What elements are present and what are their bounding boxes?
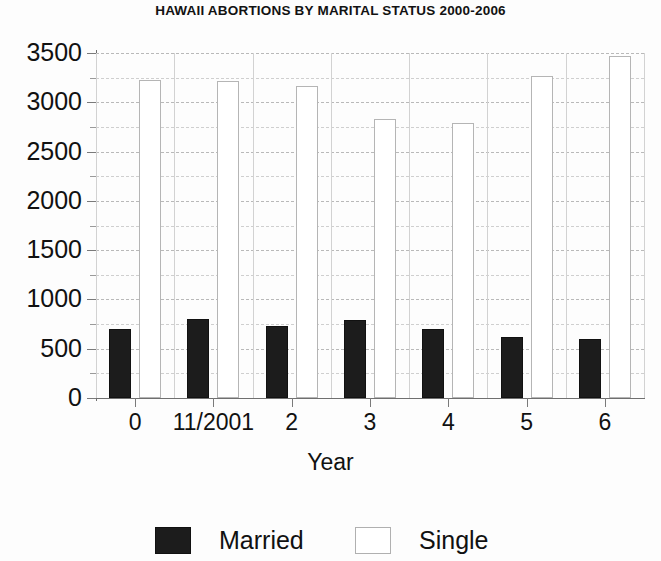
y-tick bbox=[87, 299, 96, 300]
y-tick-minor bbox=[90, 275, 96, 276]
x-axis-title: Year bbox=[0, 449, 661, 476]
y-tick-label: 1000 bbox=[2, 286, 82, 311]
vertical-gridline bbox=[487, 53, 488, 398]
vertical-gridline bbox=[644, 53, 645, 398]
gridline-minor bbox=[96, 78, 644, 79]
bar-single bbox=[531, 76, 553, 398]
y-tick bbox=[87, 102, 96, 103]
y-tick bbox=[87, 152, 96, 153]
bar-single bbox=[296, 86, 318, 398]
gridline-major bbox=[96, 250, 644, 251]
bar-single bbox=[609, 56, 631, 398]
x-tick-label: 6 bbox=[535, 411, 661, 434]
legend-label-single: Single bbox=[419, 528, 489, 553]
gridline-major bbox=[96, 152, 644, 153]
y-tick-minor bbox=[90, 127, 96, 128]
y-tick bbox=[87, 398, 96, 399]
y-tick bbox=[87, 250, 96, 251]
gridline-major bbox=[96, 201, 644, 202]
y-tick-label: 3500 bbox=[2, 40, 82, 65]
y-tick-minor bbox=[90, 226, 96, 227]
plot-area: 0500100015002000250030003500 011/2001234… bbox=[96, 53, 644, 398]
y-tick-label: 3000 bbox=[2, 89, 82, 114]
x-tick bbox=[527, 398, 528, 407]
bar-married bbox=[266, 326, 288, 398]
y-tick bbox=[87, 349, 96, 350]
gridline-major bbox=[96, 53, 644, 54]
y-tick-label: 1500 bbox=[2, 237, 82, 262]
gridline-minor bbox=[96, 226, 644, 227]
vertical-gridline bbox=[409, 53, 410, 398]
bar-single bbox=[217, 81, 239, 398]
x-tick bbox=[292, 398, 293, 407]
y-tick-label: 0 bbox=[2, 385, 82, 410]
x-tick bbox=[213, 398, 214, 407]
gridline-minor bbox=[96, 324, 644, 325]
bar-married bbox=[187, 319, 209, 398]
y-tick bbox=[87, 53, 96, 54]
y-tick-label: 2500 bbox=[2, 139, 82, 164]
chart-title: HAWAII ABORTIONS BY MARITAL STATUS 2000-… bbox=[0, 3, 661, 18]
x-tick bbox=[448, 398, 449, 407]
gridline-minor bbox=[96, 176, 644, 177]
vertical-gridline bbox=[174, 53, 175, 398]
gridline-minor bbox=[96, 373, 644, 374]
y-tick-label: 500 bbox=[2, 336, 82, 361]
y-tick-minor bbox=[90, 324, 96, 325]
x-tick bbox=[135, 398, 136, 407]
y-tick-minor bbox=[90, 373, 96, 374]
y-tick-minor bbox=[90, 78, 96, 79]
bar-single bbox=[452, 123, 474, 398]
gridline-major bbox=[96, 299, 644, 300]
x-tick bbox=[370, 398, 371, 407]
x-tick bbox=[605, 398, 606, 407]
chart-page: HAWAII ABORTIONS BY MARITAL STATUS 2000-… bbox=[0, 0, 661, 561]
legend-item-single: Single bbox=[355, 519, 489, 561]
y-tick bbox=[87, 201, 96, 202]
bar-married bbox=[501, 337, 523, 398]
vertical-gridline bbox=[331, 53, 332, 398]
chart-legend: Married Single bbox=[0, 519, 661, 561]
gridline-major bbox=[96, 349, 644, 350]
gridline-major bbox=[96, 102, 644, 103]
gridline-minor bbox=[96, 275, 644, 276]
vertical-gridline bbox=[253, 53, 254, 398]
y-tick-label: 2000 bbox=[2, 188, 82, 213]
y-tick-minor bbox=[90, 176, 96, 177]
bar-single bbox=[139, 80, 161, 398]
x-axis-line bbox=[93, 398, 645, 399]
bar-married bbox=[109, 329, 131, 398]
bar-single bbox=[374, 119, 396, 398]
legend-swatch-single bbox=[355, 527, 391, 554]
legend-swatch-married bbox=[155, 527, 191, 554]
bar-married bbox=[422, 329, 444, 398]
bar-married bbox=[579, 339, 601, 398]
bar-married bbox=[344, 320, 366, 398]
legend-label-married: Married bbox=[219, 528, 304, 553]
gridline-minor bbox=[96, 127, 644, 128]
legend-item-married: Married bbox=[155, 519, 304, 561]
vertical-gridline bbox=[96, 53, 97, 398]
vertical-gridline bbox=[566, 53, 567, 398]
